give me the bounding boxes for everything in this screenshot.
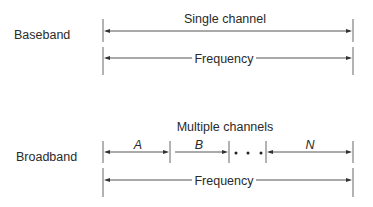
broadband-frequency-label: Frequency	[194, 174, 254, 188]
arrowhead-right-icon	[346, 178, 352, 182]
baseband-frequency-label: Frequency	[194, 52, 254, 66]
multiple-channels-label: Multiple channels	[177, 120, 274, 134]
arrowhead-left-icon	[104, 29, 110, 33]
arrowhead-left-icon	[104, 56, 110, 60]
baseband-vs-broadband-diagram: Baseband Single channel Frequency	[0, 0, 373, 207]
arrowhead-right-icon	[346, 56, 352, 60]
single-channel-arrow	[104, 29, 352, 33]
arrowhead-right-icon	[163, 150, 169, 154]
arrowhead-right-icon	[346, 29, 352, 33]
baseband-section: Baseband Single channel Frequency	[14, 12, 353, 75]
arrowhead-right-icon	[346, 150, 352, 154]
arrowhead-left-icon	[104, 178, 110, 182]
broadband-row-label: Broadband	[16, 150, 77, 164]
channel-a-label: A	[133, 138, 142, 152]
baseband-row-label: Baseband	[14, 28, 70, 42]
arrowhead-left-icon	[104, 150, 110, 154]
channel-b-label: B	[195, 138, 203, 152]
arrowhead-left-icon	[267, 150, 273, 154]
arrowhead-right-icon	[222, 150, 228, 154]
broadband-section: Broadband Multiple channels A B	[16, 120, 353, 197]
channel-n-label: N	[305, 138, 315, 152]
single-channel-label: Single channel	[184, 12, 266, 26]
ellipsis-dots-icon	[235, 152, 263, 155]
